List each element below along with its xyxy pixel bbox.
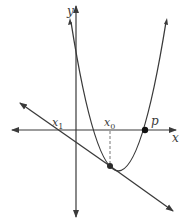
x0-label: x0 <box>104 116 115 131</box>
x1-label: x1 <box>52 116 63 131</box>
newton-method-diagram: y x x1 x0 p <box>0 0 187 222</box>
p-label: p <box>151 114 159 128</box>
tangent-point <box>107 163 113 169</box>
parabola-left-arrow-icon <box>68 18 72 25</box>
diagram-canvas: y x x1 x0 p <box>0 0 187 222</box>
x-axis-label: x <box>172 131 179 145</box>
parabola-right-arrow-icon <box>164 18 168 25</box>
y-axis-label: y <box>66 4 74 18</box>
root-point-p <box>142 127 148 133</box>
